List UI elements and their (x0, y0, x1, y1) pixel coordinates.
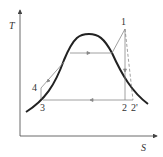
x-axis-label: S (141, 142, 146, 153)
point-2-label: 2 (122, 102, 127, 113)
axes (20, 10, 157, 136)
point-2p-label: 2' (131, 102, 138, 113)
ts-diagram: T S 1 2 2' 3 4 (0, 0, 163, 157)
point-4-label: 4 (32, 82, 37, 93)
point-1-label: 1 (121, 16, 126, 27)
y-axis-label: T (9, 20, 16, 31)
cycle-lines (41, 29, 133, 102)
point-3-label: 3 (40, 102, 45, 113)
